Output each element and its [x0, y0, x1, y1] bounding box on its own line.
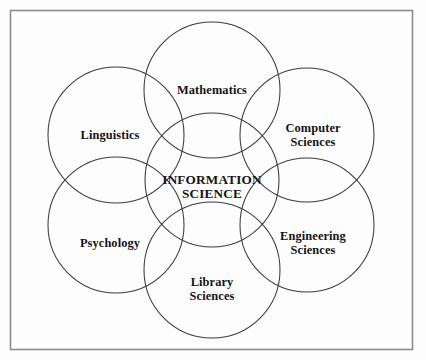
- circle-linguistics: [48, 67, 184, 203]
- circle-engineering-sciences: [240, 158, 374, 292]
- circles-group: [48, 22, 374, 338]
- figure-border: [11, 11, 413, 350]
- circle-psychology: [48, 157, 184, 293]
- venn-diagram-figure: Mathematics Computer Sciences Engineerin…: [0, 0, 426, 360]
- venn-diagram-canvas: [0, 0, 426, 360]
- circle-mathematics: [144, 22, 280, 158]
- circle-library-sciences: [144, 202, 280, 338]
- circle-computer-sciences: [240, 68, 374, 202]
- circle-information-science: [145, 113, 279, 247]
